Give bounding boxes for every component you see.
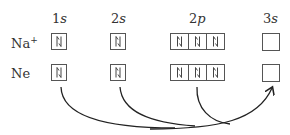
- ne-2p-boxes: [171, 65, 225, 81]
- na-1s-box: [52, 34, 67, 50]
- na-2p-boxes: [171, 34, 225, 50]
- na-2s-box: [111, 34, 126, 50]
- ne-2s-box: [111, 65, 126, 81]
- na-3s-box: [263, 34, 280, 51]
- transfer-arrows: [61, 87, 272, 129]
- ne-3s-box: [263, 65, 280, 82]
- orbital-diagram: [0, 0, 290, 135]
- ne-1s-box: [52, 65, 67, 81]
